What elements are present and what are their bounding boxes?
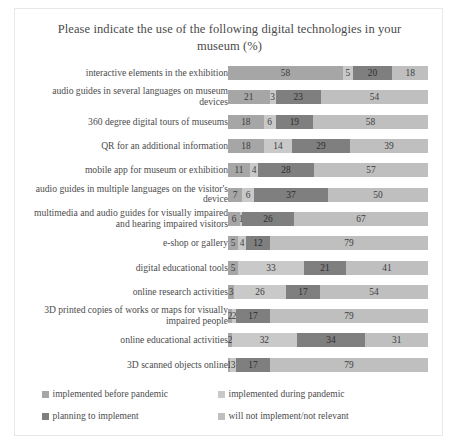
chart-row: e-shop or gallery541279 [15, 231, 444, 255]
stacked-bar: 2132354 [228, 90, 428, 104]
bar-segment: 26 [242, 212, 294, 226]
bar-segment: 57 [314, 163, 428, 177]
bar-segment: 11 [228, 163, 250, 177]
bar-segment: 18 [392, 66, 428, 80]
bar-segment: 33 [238, 261, 304, 275]
bar-segment: 79 [270, 358, 428, 372]
bar-segment: 58 [313, 115, 428, 129]
bar-segment: 31 [365, 333, 428, 347]
legend-item[interactable]: implemented before pandemic [42, 383, 210, 405]
chart-row: multimedia and audio guides for visually… [15, 207, 444, 231]
category-label: multimedia and audio guides for visually… [22, 208, 228, 229]
legend-item[interactable]: will not implement/not relevant [218, 405, 418, 427]
chart-row: audio guides in several languages on mus… [15, 85, 444, 109]
bar-segment: 18 [228, 115, 264, 129]
chart-legend: implemented before pandemicimplemented d… [15, 383, 444, 429]
chart-row: audio guides in multiple languages on th… [15, 182, 444, 206]
category-label: digital educational tools [22, 262, 228, 273]
bar-segment: 21 [304, 261, 346, 275]
bar-segment: 23 [276, 90, 322, 104]
bar-segment: 17 [286, 285, 320, 299]
stacked-bar: 1861958 [228, 115, 428, 129]
bar-segment: 5 [228, 261, 238, 275]
stacked-bar: 5332141 [228, 261, 428, 275]
category-label: audio guides in several languages on mus… [22, 87, 228, 108]
bar-segment: 14 [264, 139, 292, 153]
category-label: 3D printed copies of works or maps for v… [22, 306, 228, 327]
bar-segment: 6 [242, 188, 254, 202]
chart-title: Please indicate the use of the following… [39, 21, 420, 55]
stacked-bar: 1142857 [228, 163, 428, 177]
legend-label: will not implement/not relevant [229, 411, 349, 421]
bar-segment: 5 [343, 66, 353, 80]
bar-segment: 17 [236, 358, 270, 372]
chart-row: digital educational tools5332141 [15, 255, 444, 279]
bar-segment: 37 [254, 188, 328, 202]
category-label: e-shop or gallery [22, 238, 228, 249]
bar-segment: 6 [228, 212, 240, 226]
chart-row: online research activities3261754 [15, 280, 444, 304]
bar-segment: 4 [250, 163, 258, 177]
legend-swatch-icon [218, 391, 225, 398]
stacked-bar: 221779 [228, 309, 428, 323]
stacked-bar: 18142939 [228, 139, 428, 153]
legend-swatch-icon [42, 391, 49, 398]
bar-segment: 12 [246, 236, 270, 250]
chart-row: mobile app for museum or exhibition11428… [15, 158, 444, 182]
stacked-bar: 3261754 [228, 285, 428, 299]
chart-row: QR for an additional information18142939 [15, 134, 444, 158]
bar-segment: 39 [350, 139, 428, 153]
bar-segment: 17 [236, 309, 270, 323]
bar-segment: 50 [328, 188, 428, 202]
legend-item[interactable]: implemented during pandemic [218, 383, 418, 405]
chart-row: 3D scanned objects online131779 [15, 353, 444, 377]
category-label: audio guides in multiple languages on th… [22, 184, 228, 205]
stacked-bar: 5852018 [228, 66, 428, 80]
bar-segment: 21 [228, 90, 270, 104]
category-label: online educational activities [22, 335, 228, 346]
bar-segment: 26 [234, 285, 286, 299]
chart-row: online educational activities2323431 [15, 328, 444, 352]
legend-swatch-icon [218, 413, 225, 420]
legend-label: implemented during pandemic [229, 389, 345, 399]
bar-segment: 7 [228, 188, 242, 202]
stacked-bar: 612667 [228, 212, 428, 226]
bar-segment: 28 [258, 163, 314, 177]
bar-segment: 32 [232, 333, 297, 347]
bar-segment: 19 [276, 115, 314, 129]
category-label: 3D scanned objects online [22, 359, 228, 370]
bar-segment: 4 [238, 236, 246, 250]
bar-segment: 67 [294, 212, 428, 226]
chart-row: 360 degree digital tours of museums18619… [15, 110, 444, 134]
bar-segment: 20 [353, 66, 393, 80]
stacked-bar: 2323431 [228, 333, 428, 347]
category-label: online research activities [22, 287, 228, 298]
stacked-bar: 131779 [228, 358, 428, 372]
legend-item[interactable]: planning to implement [42, 405, 210, 427]
category-label: mobile app for museum or exhibition [22, 165, 228, 176]
legend-swatch-icon [42, 413, 49, 420]
bar-segment: 6 [264, 115, 276, 129]
bar-segment: 54 [321, 90, 428, 104]
stacked-bar-plot: interactive elements in the exhibition58… [15, 61, 444, 377]
bar-segment: 5 [228, 236, 238, 250]
stacked-bar: 763750 [228, 188, 428, 202]
legend-label: planning to implement [53, 411, 139, 421]
bar-segment: 54 [320, 285, 428, 299]
bar-segment: 58 [228, 66, 343, 80]
bar-segment: 79 [270, 309, 428, 323]
stacked-bar: 541279 [228, 236, 428, 250]
chart-card: Please indicate the use of the following… [14, 8, 443, 436]
chart-row: 3D printed copies of works or maps for v… [15, 304, 444, 328]
category-label: interactive elements in the exhibition [22, 68, 228, 79]
bar-segment: 79 [270, 236, 428, 250]
legend-label: implemented before pandemic [53, 389, 169, 399]
bar-segment: 18 [228, 139, 264, 153]
chart-row: interactive elements in the exhibition58… [15, 61, 444, 85]
category-label: QR for an additional information [22, 141, 228, 152]
bar-segment: 29 [292, 139, 350, 153]
bar-segment: 34 [297, 333, 366, 347]
bar-segment: 41 [346, 261, 428, 275]
category-label: 360 degree digital tours of museums [22, 116, 228, 127]
